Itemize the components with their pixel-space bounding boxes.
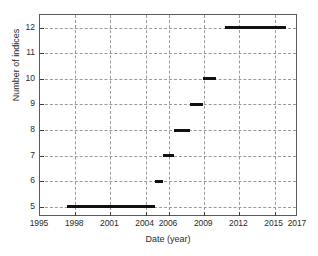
x-axis-tick-label: 1995 bbox=[30, 218, 49, 228]
x-axis-tick bbox=[169, 212, 170, 216]
gridline-vertical bbox=[75, 15, 76, 215]
y-axis-tick-label: 6 bbox=[20, 175, 35, 185]
y-axis-tick bbox=[40, 53, 44, 54]
x-axis-tick bbox=[110, 212, 111, 216]
data-segment bbox=[225, 26, 286, 29]
x-axis-tick bbox=[239, 212, 240, 216]
data-segment bbox=[174, 129, 190, 132]
chart-figure: Number of indices Date (year) 5678910111… bbox=[0, 0, 318, 256]
gridline-horizontal bbox=[40, 79, 296, 80]
y-axis-tick bbox=[40, 28, 44, 29]
x-axis-tick-label: 1998 bbox=[65, 218, 84, 228]
y-axis-tick-label: 10 bbox=[20, 73, 35, 83]
gridline-vertical bbox=[146, 15, 147, 215]
y-axis-tick-label: 9 bbox=[20, 98, 35, 108]
gridline-vertical bbox=[110, 15, 111, 215]
gridline-vertical bbox=[275, 15, 276, 215]
x-axis-tick-label: 2001 bbox=[100, 218, 119, 228]
gridline-vertical bbox=[169, 15, 170, 215]
data-segment bbox=[163, 154, 174, 157]
data-segment bbox=[67, 205, 155, 208]
y-axis-tick bbox=[40, 130, 44, 131]
y-axis-tick bbox=[40, 79, 44, 80]
data-segment bbox=[155, 180, 163, 183]
x-axis-tick-label: 2004 bbox=[135, 218, 154, 228]
y-axis-tick-label: 11 bbox=[20, 47, 35, 57]
y-axis-tick bbox=[40, 207, 44, 208]
y-axis-tick bbox=[40, 104, 44, 105]
x-axis-tick bbox=[146, 212, 147, 216]
x-axis-tick bbox=[275, 212, 276, 216]
data-segment bbox=[190, 103, 203, 106]
x-axis-tick-label: 2015 bbox=[264, 218, 283, 228]
y-axis-tick-label: 5 bbox=[20, 201, 35, 211]
x-axis-tick bbox=[75, 212, 76, 216]
x-axis-title: Date (year) bbox=[39, 234, 297, 244]
x-axis-tick-label: 2017 bbox=[288, 218, 307, 228]
gridline-horizontal bbox=[40, 130, 296, 131]
plot-area bbox=[39, 14, 297, 216]
data-segment bbox=[203, 77, 216, 80]
y-axis-tick-label: 7 bbox=[20, 150, 35, 160]
x-axis-tick bbox=[204, 212, 205, 216]
y-axis-tick bbox=[40, 181, 44, 182]
y-axis-tick-label: 8 bbox=[20, 124, 35, 134]
gridline-horizontal bbox=[40, 181, 296, 182]
gridline-horizontal bbox=[40, 53, 296, 54]
x-axis-tick-label: 2012 bbox=[229, 218, 248, 228]
gridline-horizontal bbox=[40, 104, 296, 105]
gridline-vertical bbox=[204, 15, 205, 215]
y-axis-tick bbox=[40, 156, 44, 157]
gridline-vertical bbox=[239, 15, 240, 215]
x-axis-tick-label: 2006 bbox=[159, 218, 178, 228]
y-axis-tick-label: 12 bbox=[20, 22, 35, 32]
x-axis-tick-label: 2009 bbox=[194, 218, 213, 228]
